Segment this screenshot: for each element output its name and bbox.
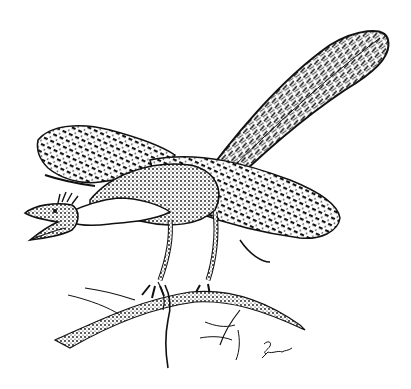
lizard: [158, 282, 170, 368]
illustration: [0, 0, 411, 389]
illustration-canvas: [0, 0, 411, 389]
signature: [262, 342, 292, 358]
eye: [53, 209, 57, 213]
head: [25, 192, 78, 240]
crest: [58, 192, 78, 204]
